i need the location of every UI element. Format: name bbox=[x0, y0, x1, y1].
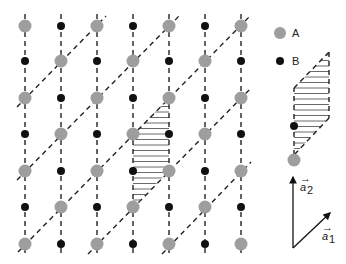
vector-a1-label: a 1 → bbox=[322, 221, 335, 245]
atom-a bbox=[163, 238, 176, 251]
atom-a bbox=[91, 238, 104, 251]
atom-b bbox=[165, 130, 173, 138]
inset-unit-cell-hatch bbox=[294, 55, 329, 154]
lattice-diagram: A B a 2 → a 1 → bbox=[0, 0, 346, 264]
atom-b bbox=[201, 22, 209, 30]
atom-b bbox=[201, 240, 209, 248]
vector-a2-subscript: 2 bbox=[307, 184, 313, 196]
atom-b bbox=[21, 57, 29, 65]
atom-a bbox=[235, 20, 248, 33]
atom-a bbox=[55, 201, 68, 214]
atom-b bbox=[129, 94, 137, 102]
atom-b bbox=[201, 167, 209, 175]
atom-b bbox=[57, 22, 65, 30]
atom-b bbox=[93, 130, 101, 138]
atom-b bbox=[93, 203, 101, 211]
atom-a bbox=[163, 92, 176, 105]
atom-a bbox=[91, 92, 104, 105]
atom-a bbox=[235, 92, 248, 105]
atom-b bbox=[93, 57, 101, 65]
atom-b bbox=[21, 130, 29, 138]
atom-b bbox=[237, 203, 245, 211]
vector-a1-subscript: 1 bbox=[329, 233, 335, 245]
atom-a bbox=[55, 55, 68, 68]
vector-a1-arrow-accent: → bbox=[322, 221, 333, 233]
atom-b bbox=[201, 94, 209, 102]
atom-b bbox=[237, 130, 245, 138]
atom-a bbox=[127, 201, 140, 214]
atom-a bbox=[127, 128, 140, 141]
atom-a bbox=[199, 201, 212, 214]
atom-a bbox=[55, 128, 68, 141]
atom-a bbox=[199, 128, 212, 141]
atom-a bbox=[163, 20, 176, 33]
atom-b bbox=[237, 57, 245, 65]
atom-b bbox=[57, 94, 65, 102]
atom-a bbox=[163, 165, 176, 178]
atom-a bbox=[19, 92, 32, 105]
atom-a bbox=[127, 55, 140, 68]
atom-b bbox=[165, 203, 173, 211]
atom-a bbox=[19, 165, 32, 178]
legend: A B bbox=[274, 27, 300, 67]
inset-atom-a bbox=[288, 154, 301, 167]
atom-a bbox=[19, 238, 32, 251]
inset-atom-b bbox=[290, 122, 298, 130]
atom-a bbox=[235, 238, 248, 251]
legend-label-b: B bbox=[292, 55, 299, 67]
atom-a bbox=[91, 20, 104, 33]
vector-a2-label: a 2 → bbox=[300, 172, 313, 196]
inset-cell-edge bbox=[294, 118, 329, 155]
atom-b bbox=[129, 240, 137, 248]
atom-b bbox=[129, 167, 137, 175]
atom-b bbox=[21, 203, 29, 211]
atom-b bbox=[57, 240, 65, 248]
legend-label-a: A bbox=[292, 27, 300, 39]
atom-b bbox=[165, 57, 173, 65]
legend-atom-b-icon bbox=[276, 57, 284, 65]
atom-a bbox=[199, 55, 212, 68]
atom-b bbox=[57, 167, 65, 175]
atom-b bbox=[129, 22, 137, 30]
atom-a bbox=[91, 165, 104, 178]
vector-a2-arrow-accent: → bbox=[300, 172, 311, 184]
legend-atom-a-icon bbox=[274, 27, 286, 39]
lattice-figure: A B a 2 → a 1 → bbox=[0, 0, 346, 264]
atom-a bbox=[19, 20, 32, 33]
atom-a bbox=[235, 165, 248, 178]
inset-cell-edges bbox=[294, 52, 329, 155]
basis-vectors: a 2 → a 1 → bbox=[293, 172, 335, 248]
